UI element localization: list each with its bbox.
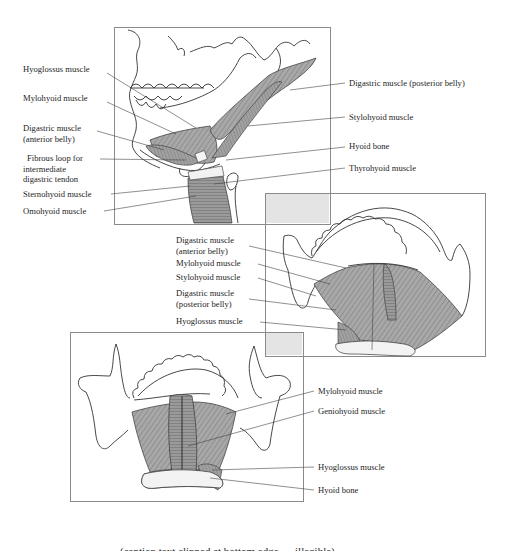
label-line-2: intermediate [23, 164, 83, 175]
hyoid-bone-superior [142, 470, 223, 489]
geniohyoid-muscle-superior [169, 395, 197, 473]
label-hyoid-bone-lateral: Hyoid bone [349, 141, 389, 152]
label-stylohyoid-inferior: Stylohyoid muscle [176, 272, 240, 283]
label-line-3: digastric tendon [23, 174, 83, 185]
label-line-2: (anterior belly) [23, 134, 81, 145]
label-sternohyoid: Sternohyoid muscle [23, 189, 92, 200]
label-line-1: Digastric muscle [176, 235, 234, 246]
label-line-1: Digastric muscle [176, 288, 234, 299]
label-hyoglossus-superior: Hyoglossus muscle [318, 462, 385, 473]
label-geniohyoid-superior: Geniohyoid muscle [318, 406, 385, 417]
label-digastric-posterior-inferior: Digastric muscle (posterior belly) [176, 288, 234, 309]
label-mylohyoid-inferior: Mylohyoid muscle [176, 258, 241, 269]
label-omohyoid: Omohyoid muscle [23, 206, 86, 217]
label-line-2: (posterior belly) [176, 299, 234, 310]
label-mylohyoid-superior: Mylohyoid muscle [318, 386, 383, 397]
label-line-1: Digastric muscle [23, 123, 81, 134]
label-fibrous-loop: Fibrous loop for intermediate digastric … [23, 153, 83, 185]
label-digastric-anterior-lateral: Digastric muscle (anterior belly) [23, 123, 81, 144]
label-thyrohyoid: Thyrohyoid muscle [349, 163, 416, 174]
figure-caption-clipped: (caption text clipped at bottom edge — i… [120, 540, 335, 551]
label-hyoglossus-inferior: Hyoglossus muscle [176, 316, 243, 327]
label-hyoid-bone-superior: Hyoid bone [318, 485, 358, 496]
label-line-1: Fibrous loop for [23, 153, 83, 164]
label-mylohyoid-lateral: Mylohyoid muscle [23, 93, 88, 104]
label-line-2: (anterior belly) [176, 246, 234, 257]
label-digastric-anterior-inferior: Digastric muscle (anterior belly) [176, 235, 234, 256]
label-stylohyoid-lateral: Stylohyoid muscle [349, 112, 413, 123]
label-digastric-posterior-lateral: Digastric muscle (posterior belly) [349, 78, 465, 89]
label-hyoglossus-lateral: Hyoglossus muscle [23, 64, 90, 75]
